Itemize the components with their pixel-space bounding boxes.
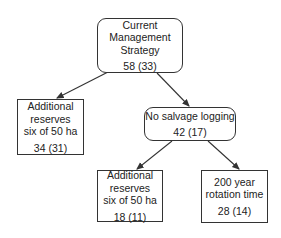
node-value: 42 (17) (173, 126, 206, 139)
node-label-line: reserves (30, 113, 70, 126)
node-value: 28 (14) (218, 205, 251, 218)
node-no-salvage-logging: No salvage logging 42 (17) (144, 107, 236, 141)
node-value: 58 (33) (123, 60, 156, 73)
node-label-line: Current (122, 19, 157, 32)
edge-root-to-no-salvage (157, 73, 189, 106)
node-label-line: reserves (110, 182, 150, 195)
node-label-line: six of 50 ha (24, 125, 78, 138)
edge-no-salvage-to-rotation (208, 141, 239, 169)
node-label-line: Additional (27, 100, 73, 113)
node-label-line: Additional (107, 169, 153, 182)
edge-root-to-left-reserves (57, 71, 110, 98)
node-current-management-strategy: Current Management Strategy 58 (33) (97, 18, 183, 73)
node-value: 34 (31) (34, 142, 67, 155)
node-label-line: 200 year (214, 176, 255, 189)
edge-no-salvage-to-sub-reserves (137, 141, 172, 169)
node-200-year-rotation: 200 year rotation time 28 (14) (201, 170, 268, 223)
node-label-line: six of 50 ha (103, 194, 157, 207)
node-label-line: Management (109, 31, 170, 44)
node-label-line: rotation time (206, 188, 264, 201)
node-label-line: No salvage logging (145, 110, 234, 123)
node-label-line: Strategy (120, 44, 159, 57)
node-value: 18 (11) (114, 211, 147, 224)
node-additional-reserves-sub: Additional reserves six of 50 ha 18 (11) (97, 170, 163, 222)
node-additional-reserves-left: Additional reserves six of 50 ha 34 (31) (17, 99, 84, 155)
